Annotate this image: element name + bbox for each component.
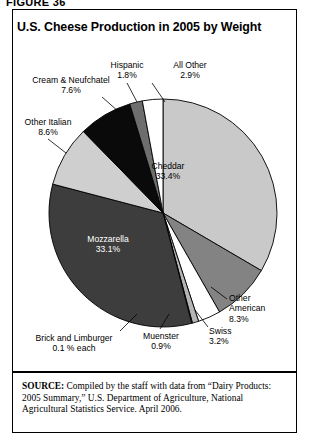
pie-chart-area: All Other 2.9% Hispanic 1.8% Cream & Neu… bbox=[12, 9, 297, 369]
slice-label-other-italian-pct: 8.6% bbox=[12, 127, 84, 137]
slice-label-other-italian: Other Italian 8.6% bbox=[12, 117, 84, 138]
slice-label-swiss-name: Swiss bbox=[209, 326, 253, 336]
slice-label-cream-neufchatel: Cream & Neufchatel 7.6% bbox=[28, 75, 114, 96]
source-note: SOURCE: Compiled by the staff with data … bbox=[22, 381, 284, 416]
slice-label-brick-pct: 0.1 % each bbox=[26, 343, 122, 353]
leader-line-hispanic bbox=[127, 83, 137, 102]
source-divider bbox=[13, 371, 296, 373]
slice-label-mozzarella: Mozzarella 33.1% bbox=[72, 234, 144, 255]
slice-label-hispanic-name: Hispanic bbox=[98, 60, 156, 70]
slice-label-brick-name: Brick and Limburger bbox=[26, 333, 122, 343]
leader-line-italian bbox=[48, 139, 66, 153]
slice-label-cream-pct: 7.6% bbox=[28, 85, 114, 95]
slice-label-swiss: Swiss 3.2% bbox=[209, 326, 253, 347]
slice-label-cheddar-pct: 33.4% bbox=[136, 171, 200, 181]
slice-label-all-other-name: All Other bbox=[162, 60, 218, 70]
slice-label-muenster: Muenster 0.9% bbox=[131, 331, 191, 352]
slice-label-muenster-pct: 0.9% bbox=[131, 341, 191, 351]
slice-label-all-other-pct: 2.9% bbox=[162, 70, 218, 80]
slice-label-other-american: Other American 8.3% bbox=[229, 293, 289, 324]
figure-number-label: FIGURE 36 bbox=[6, 0, 66, 8]
slice-label-other-american-name-2: American bbox=[229, 303, 289, 313]
source-keyword: SOURCE: bbox=[22, 381, 64, 391]
slice-label-cheddar-name: Cheddar bbox=[136, 161, 200, 171]
slice-label-swiss-pct: 3.2% bbox=[209, 336, 253, 346]
slice-label-cream-name: Cream & Neufchatel bbox=[28, 75, 114, 85]
slice-label-all-other: All Other 2.9% bbox=[162, 60, 218, 81]
slice-label-other-american-name-1: Other bbox=[229, 293, 289, 303]
leader-line-cream bbox=[102, 97, 119, 112]
slice-label-cheddar: Cheddar 33.4% bbox=[136, 161, 200, 182]
slice-label-muenster-name: Muenster bbox=[131, 331, 191, 341]
slice-label-mozzarella-pct: 33.1% bbox=[72, 244, 144, 254]
slice-label-other-italian-name: Other Italian bbox=[12, 117, 84, 127]
slice-label-brick-limburger: Brick and Limburger 0.1 % each bbox=[26, 333, 122, 354]
slice-label-other-american-pct: 8.3% bbox=[229, 314, 289, 324]
slice-label-mozzarella-name: Mozzarella bbox=[72, 234, 144, 244]
